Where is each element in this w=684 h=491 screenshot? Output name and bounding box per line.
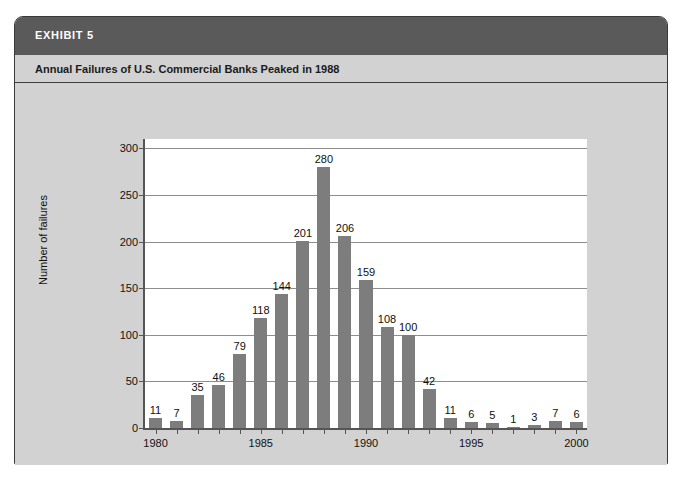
exhibit-subtitle-band: Annual Failures of U.S. Commercial Banks… (15, 55, 667, 83)
bar-value-label: 5 (489, 409, 495, 421)
bar: 11 (149, 418, 162, 428)
bar: 159 (359, 280, 372, 428)
plot-area: 050100150200250300 117354679118144201280… (143, 139, 587, 430)
x-tick-label: 1990 (354, 437, 378, 449)
bar-value-label: 6 (468, 408, 474, 420)
x-tick-mark (282, 428, 283, 434)
x-tick-mark (219, 428, 220, 434)
x-tick-label: 2000 (564, 437, 588, 449)
bar-value-label: 6 (573, 408, 579, 420)
x-tick-mark (261, 428, 262, 434)
y-tick-mark (139, 148, 144, 149)
y-axis-title: Number of failures (37, 160, 49, 320)
bar-value-label: 159 (357, 266, 375, 278)
x-tick-mark (429, 428, 430, 434)
bar: 206 (338, 236, 351, 428)
gridline (145, 195, 587, 196)
y-tick-label: 200 (120, 236, 138, 248)
exhibit-panel: EXHIBIT 5 Annual Failures of U.S. Commer… (14, 16, 668, 464)
bar-value-label: 1 (510, 413, 516, 425)
x-tick-mark (177, 428, 178, 434)
bar-value-label: 108 (378, 313, 396, 325)
gridline (145, 242, 587, 243)
gridline (145, 148, 587, 149)
bar: 42 (423, 389, 436, 428)
bar-value-label: 201 (294, 227, 312, 239)
x-tick-mark (492, 428, 493, 434)
y-tick-label: 250 (120, 189, 138, 201)
chart-title: Annual Failures of U.S. Commercial Banks… (35, 63, 339, 75)
bar-value-label: 3 (531, 411, 537, 423)
bar-value-label: 79 (234, 340, 246, 352)
y-tick-mark (139, 428, 144, 429)
x-tick-mark (240, 428, 241, 434)
bar: 79 (233, 354, 246, 428)
x-tick-mark (513, 428, 514, 434)
bar: 201 (296, 241, 309, 428)
bar: 118 (254, 318, 267, 428)
bar: 35 (191, 395, 204, 428)
bar-value-label: 35 (191, 381, 203, 393)
bar: 100 (402, 335, 415, 428)
bar-value-label: 118 (252, 304, 270, 316)
bar-value-label: 11 (444, 404, 455, 416)
x-tick-mark (303, 428, 304, 434)
bar-value-label: 280 (315, 153, 333, 165)
bar: 11 (444, 418, 457, 428)
x-tick-mark (408, 428, 409, 434)
x-tick-mark (576, 428, 577, 434)
x-tick-mark (450, 428, 451, 434)
x-tick-mark (387, 428, 388, 434)
y-tick-label: 50 (126, 375, 138, 387)
bar-value-label: 42 (423, 375, 435, 387)
y-tick-label: 100 (120, 329, 138, 341)
x-tick-mark (471, 428, 472, 434)
bar: 108 (381, 327, 394, 428)
bar-value-label: 46 (213, 371, 225, 383)
y-tick-mark (139, 335, 144, 336)
x-tick-mark (156, 428, 157, 434)
bar-value-label: 7 (173, 407, 179, 419)
bar-value-label: 144 (273, 280, 291, 292)
x-tick-label: 1980 (143, 437, 167, 449)
bar-value-label: 7 (552, 407, 558, 419)
y-tick-mark (139, 242, 144, 243)
bar-value-label: 206 (336, 222, 354, 234)
x-tick-mark (366, 428, 367, 434)
chart-region: Number of failures 050100150200250300 11… (15, 84, 667, 465)
x-tick-mark (324, 428, 325, 434)
x-tick-mark (198, 428, 199, 434)
exhibit-header-band: EXHIBIT 5 (15, 17, 667, 55)
x-tick-mark (534, 428, 535, 434)
y-tick-label: 300 (120, 142, 138, 154)
bar-value-label: 11 (150, 404, 161, 416)
y-tick-mark (139, 381, 144, 382)
x-tick-label: 1995 (459, 437, 483, 449)
y-tick-label: 150 (120, 282, 138, 294)
x-tick-mark (555, 428, 556, 434)
x-tick-label: 1985 (249, 437, 273, 449)
bar: 144 (275, 294, 288, 428)
x-tick-mark (345, 428, 346, 434)
bar-value-label: 100 (399, 321, 417, 333)
bar: 46 (212, 385, 225, 428)
bar: 280 (317, 167, 330, 428)
y-tick-label: 0 (132, 422, 138, 434)
y-tick-mark (139, 195, 144, 196)
y-tick-mark (139, 288, 144, 289)
exhibit-label: EXHIBIT 5 (35, 29, 94, 41)
